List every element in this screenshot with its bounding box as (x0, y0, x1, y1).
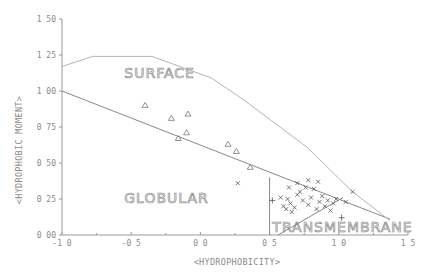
x-marker (328, 209, 332, 213)
x-marker (306, 178, 310, 182)
triangle-marker (142, 102, 148, 107)
x-tick-label: 1 5 (401, 239, 416, 248)
scatter-chart: 0 000 250 500 751 001 251 50-1 0-0 50 00… (0, 0, 435, 280)
y-tick-label: 1 00 (37, 87, 56, 96)
triangle-marker (233, 148, 239, 153)
x-marker (284, 207, 288, 211)
x-marker (351, 190, 355, 194)
triangle-marker (184, 130, 190, 135)
x-marker (236, 181, 240, 185)
region-label-surface: SURFACE (124, 65, 195, 81)
x-marker (306, 203, 310, 207)
x-marker (326, 198, 330, 202)
x-tick-label: -0 5 (122, 239, 141, 248)
x-marker (301, 198, 305, 202)
x-marker (320, 194, 324, 198)
x-marker (279, 196, 283, 200)
x-marker (316, 180, 320, 184)
region-boundaries (62, 56, 390, 235)
x-marker (331, 201, 335, 205)
axes: 0 000 250 500 751 001 251 50-1 0-0 50 00… (37, 15, 416, 248)
y-tick-label: 0 50 (37, 159, 56, 168)
x-marker (287, 185, 291, 189)
region-label-transmembrane: TRANSMEMBRANE (271, 219, 412, 235)
x-marker (290, 210, 294, 214)
x-marker (309, 196, 313, 200)
x-tick-label: 0 5 (262, 239, 277, 248)
x-marker (286, 197, 290, 201)
triangle-marker (225, 141, 231, 146)
x-tick-label: -1 0 (52, 239, 71, 248)
x-tick-label: 1 0 (332, 239, 347, 248)
x-axis-label: <HYDROPHOBICITY> (194, 257, 281, 267)
triangle-marker (168, 115, 174, 120)
triangle-marker (185, 111, 191, 116)
x-marker (315, 207, 319, 211)
y-axis-label: <HYDROPHOBIC MOMENT> (14, 96, 24, 204)
y-tick-label: 0 75 (37, 123, 56, 132)
region-labels: SURFACEGLOBULARTRANSMEMBRANE (124, 65, 412, 235)
x-marker (317, 200, 321, 204)
region-label-globular: GLOBULAR (124, 190, 208, 206)
y-tick-label: 1 50 (37, 15, 56, 24)
triangle-marker (175, 136, 181, 141)
x-tick-label: 0 0 (193, 239, 208, 248)
upper-envelope-curve (62, 56, 390, 220)
x-marker (288, 201, 292, 205)
y-tick-label: 1 25 (37, 51, 56, 60)
plus-marker (269, 197, 275, 203)
y-tick-label: 0 25 (37, 195, 56, 204)
x-marker (298, 190, 302, 194)
surface-globular-line (62, 91, 390, 219)
x-marker (293, 206, 297, 210)
